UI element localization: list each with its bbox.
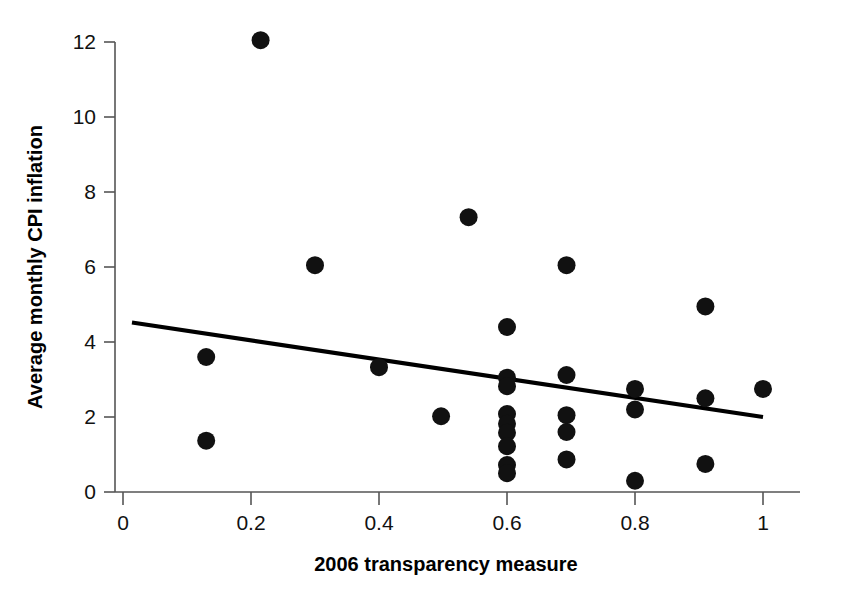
y-tick-label: 0 xyxy=(84,480,96,503)
data-point xyxy=(306,256,324,274)
data-point xyxy=(498,437,516,455)
data-point xyxy=(696,455,714,473)
data-point xyxy=(626,401,644,419)
scatter-plot-figure: 024681012 00.20.40.60.81 2006 transparen… xyxy=(0,0,843,598)
data-point xyxy=(696,389,714,407)
data-points-group xyxy=(197,31,772,490)
y-tick-label: 6 xyxy=(84,255,96,278)
data-point xyxy=(252,31,270,49)
data-point xyxy=(558,256,576,274)
x-tick-label: 0.4 xyxy=(364,511,394,534)
data-point xyxy=(558,423,576,441)
data-point xyxy=(696,297,714,315)
data-point xyxy=(626,472,644,490)
y-tick-label: 12 xyxy=(73,30,96,53)
trend-line xyxy=(132,323,763,418)
x-tick-label: 0.6 xyxy=(492,511,521,534)
y-tick-label: 4 xyxy=(84,330,96,353)
data-point xyxy=(460,208,478,226)
data-point xyxy=(370,358,388,376)
y-axis-title: Average monthly CPI inflation xyxy=(24,125,46,409)
y-tick-label: 10 xyxy=(73,105,96,128)
data-point xyxy=(432,407,450,425)
y-tick-label: 2 xyxy=(84,405,96,428)
data-point xyxy=(498,464,516,482)
data-point xyxy=(626,380,644,398)
data-point xyxy=(498,318,516,336)
data-point xyxy=(558,450,576,468)
x-axis-ticks: 00.20.40.60.81 xyxy=(117,492,769,534)
data-point xyxy=(754,380,772,398)
data-point xyxy=(558,366,576,384)
y-axis-ticks: 024681012 xyxy=(73,30,115,503)
x-tick-label: 0.8 xyxy=(620,511,649,534)
data-point xyxy=(498,377,516,395)
data-point xyxy=(558,406,576,424)
x-axis-title: 2006 transparency measure xyxy=(314,553,578,575)
plot-canvas: 024681012 00.20.40.60.81 2006 transparen… xyxy=(0,0,843,598)
y-tick-label: 8 xyxy=(84,180,96,203)
data-point xyxy=(197,348,215,366)
data-point xyxy=(197,432,215,450)
x-tick-label: 0 xyxy=(117,511,129,534)
x-tick-label: 1 xyxy=(757,511,769,534)
x-tick-label: 0.2 xyxy=(236,511,265,534)
